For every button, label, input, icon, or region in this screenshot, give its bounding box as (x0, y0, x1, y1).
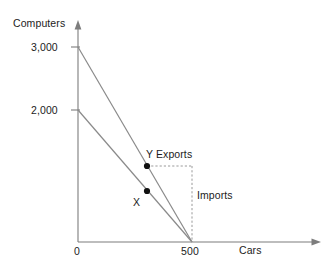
y-tick-label-3000: 3,000 (31, 41, 58, 53)
x-tick-label-0: 0 (74, 245, 80, 257)
imports-region-label: Imports (197, 189, 233, 201)
x-axis-arrow-icon (312, 239, 322, 246)
x-axis-title: Cars (239, 244, 262, 256)
economics-trade-chart: Computers Cars 3,000 2,000 0 500 Y Expor… (0, 0, 333, 268)
series-trade-line (78, 47, 192, 242)
data-point-y-marker (144, 163, 150, 169)
y-tick-label-2000: 2,000 (31, 104, 58, 116)
data-point-x-marker (144, 188, 150, 194)
x-tick-label-500: 500 (181, 245, 199, 257)
data-point-x-label: X (133, 196, 140, 208)
data-point-y-label: Y Exports (146, 148, 192, 160)
series-ppf-line (78, 110, 192, 242)
y-axis-arrow-icon (75, 20, 82, 30)
y-axis-title: Computers (13, 17, 65, 29)
